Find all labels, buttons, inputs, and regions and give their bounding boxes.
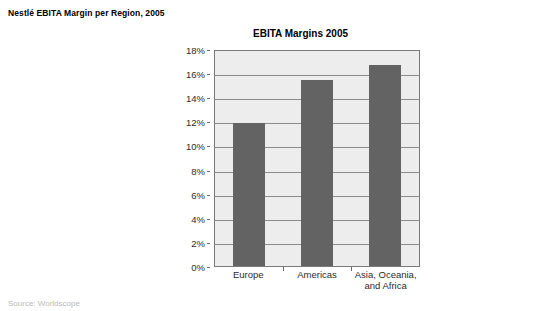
bar	[369, 65, 401, 266]
y-axis-tick-mark	[207, 50, 210, 51]
y-axis-tick-mark	[207, 98, 210, 99]
bar-slot	[215, 51, 283, 266]
bar-series	[215, 51, 419, 266]
y-axis-tick-mark	[207, 122, 210, 123]
chart-figure: EBITA Margins 2005 18%16%14%12%10%8%6%4%…	[181, 28, 426, 290]
x-axis-tick-mark	[351, 267, 352, 271]
y-axis-tick-mark	[207, 171, 210, 172]
y-axis-tick-mark	[207, 74, 210, 75]
plot-area	[214, 50, 420, 267]
x-axis-category-line: Europe	[214, 269, 283, 280]
y-axis: 18%16%14%12%10%8%6%4%2%0%	[181, 50, 210, 267]
x-axis-category-line: and Africa	[351, 280, 420, 291]
x-axis-category-label: Americas	[283, 269, 352, 291]
bar	[233, 123, 265, 266]
x-axis-category-line: Americas	[283, 269, 352, 280]
y-axis-tick-mark	[207, 243, 210, 244]
bar-slot	[283, 51, 351, 266]
x-axis-category-line: Asia, Oceania,	[351, 269, 420, 280]
source-note: Source: Worldscope	[8, 299, 80, 308]
bar	[301, 80, 333, 266]
bar-slot	[351, 51, 419, 266]
figure-caption: Nestlé EBITA Margin per Region, 2005	[8, 8, 165, 18]
x-axis-category-label: Asia, Oceania,and Africa	[351, 269, 420, 291]
x-axis-category-label: Europe	[214, 269, 283, 291]
y-axis-tick-mark	[207, 195, 210, 196]
chart-title: EBITA Margins 2005	[181, 28, 420, 39]
x-axis: EuropeAmericasAsia, Oceania,and Africa	[214, 269, 420, 291]
y-axis-tick-mark	[207, 267, 210, 268]
y-axis-tick-mark	[207, 219, 210, 220]
y-axis-tick-mark	[207, 146, 210, 147]
x-axis-tick-mark	[283, 267, 284, 271]
